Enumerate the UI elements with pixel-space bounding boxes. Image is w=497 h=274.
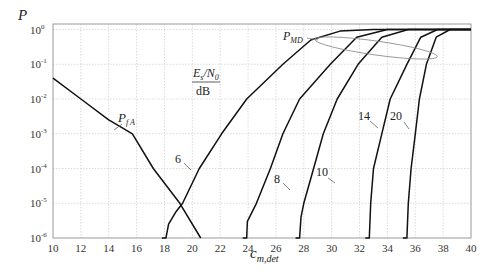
- leader-20: [404, 122, 409, 129]
- y-tick-label: 10-6: [30, 231, 47, 244]
- curve-label-14: 14: [358, 109, 370, 123]
- chart-figure: 10121416182022242628303234363840 10010-1…: [0, 0, 497, 274]
- y-tick-label: 10-1: [30, 57, 47, 70]
- x-tick-label: 38: [438, 242, 450, 254]
- y-axis-ticks: 10010-110-210-310-410-510-6: [30, 23, 47, 245]
- legend-title-denominator: dB: [196, 84, 210, 98]
- curve-p-md-6-db: [162, 30, 471, 239]
- pmd-label: PMD: [282, 29, 303, 45]
- x-tick-label: 16: [131, 242, 143, 254]
- y-tick-label: 10-5: [30, 196, 47, 209]
- curve-label-8: 8: [274, 172, 280, 186]
- leader-6: [184, 163, 191, 170]
- curve-label-10: 10: [316, 165, 328, 179]
- x-tick-label: 20: [187, 242, 199, 254]
- y-axis-label: P: [17, 7, 27, 23]
- x-tick-label: 10: [48, 242, 60, 254]
- x-tick-label: 32: [354, 242, 365, 254]
- x-tick-label: 22: [215, 242, 226, 254]
- x-tick-label: 40: [466, 242, 478, 254]
- x-tick-label: 30: [326, 242, 338, 254]
- x-tick-label: 34: [382, 242, 394, 254]
- leader-8: [283, 183, 290, 190]
- pfa-label: Pf A: [117, 110, 135, 127]
- x-tick-label: 12: [75, 242, 86, 254]
- curve-label-20: 20: [390, 109, 402, 123]
- x-tick-label: 14: [103, 242, 115, 254]
- y-tick-label: 10-2: [30, 92, 47, 105]
- legend-title-numerator: Es/N0: [192, 66, 219, 82]
- x-tick-label: 18: [159, 242, 171, 254]
- y-tick-label: 10-3: [30, 127, 47, 140]
- y-tick-label: 10-4: [30, 162, 47, 175]
- leader-10: [328, 178, 335, 183]
- y-tick-label: 100: [30, 23, 45, 36]
- x-tick-label: 28: [298, 242, 310, 254]
- chart-svg: 10121416182022242628303234363840 10010-1…: [0, 0, 497, 274]
- x-tick-label: 36: [410, 242, 422, 254]
- pmd-ellipse: [314, 32, 439, 63]
- leader-14: [370, 121, 378, 128]
- curve-label-6: 6: [175, 152, 181, 166]
